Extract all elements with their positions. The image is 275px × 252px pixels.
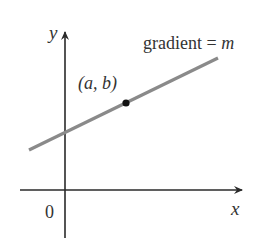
point-label: (a, b) [78, 73, 117, 94]
y-axis-label: y [47, 22, 58, 43]
gradient-label-var: m [221, 33, 234, 53]
point-a-b [122, 99, 129, 106]
x-axis-label: x [230, 198, 240, 219]
gradient-label: gradient = m [143, 33, 234, 53]
line-gradient-diagram: y x 0 gradient = m (a, b) [0, 0, 275, 252]
origin-label: 0 [45, 202, 54, 222]
gradient-label-prefix: gradient = [143, 33, 221, 53]
